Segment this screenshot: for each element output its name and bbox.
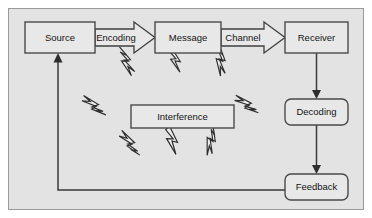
- diagram-canvas: Encoding Channel: [0, 0, 372, 218]
- interference-label: Interference: [157, 111, 208, 122]
- source-label: Source: [45, 32, 75, 43]
- node-feedback[interactable]: Feedback: [285, 174, 348, 200]
- node-interference[interactable]: Interference: [131, 105, 234, 128]
- node-source[interactable]: Source: [25, 22, 95, 53]
- communication-model-diagram: Encoding Channel: [0, 0, 372, 218]
- node-receiver[interactable]: Receiver: [285, 22, 348, 53]
- node-decoding[interactable]: Decoding: [285, 99, 348, 125]
- feedback-label: Feedback: [296, 181, 338, 192]
- receiver-label: Receiver: [298, 32, 336, 43]
- encoding-arrow-label: Encoding: [96, 32, 136, 43]
- channel-arrow-label: Channel: [225, 32, 260, 43]
- message-label: Message: [169, 32, 208, 43]
- node-message[interactable]: Message: [155, 22, 221, 53]
- decoding-label: Decoding: [296, 106, 336, 117]
